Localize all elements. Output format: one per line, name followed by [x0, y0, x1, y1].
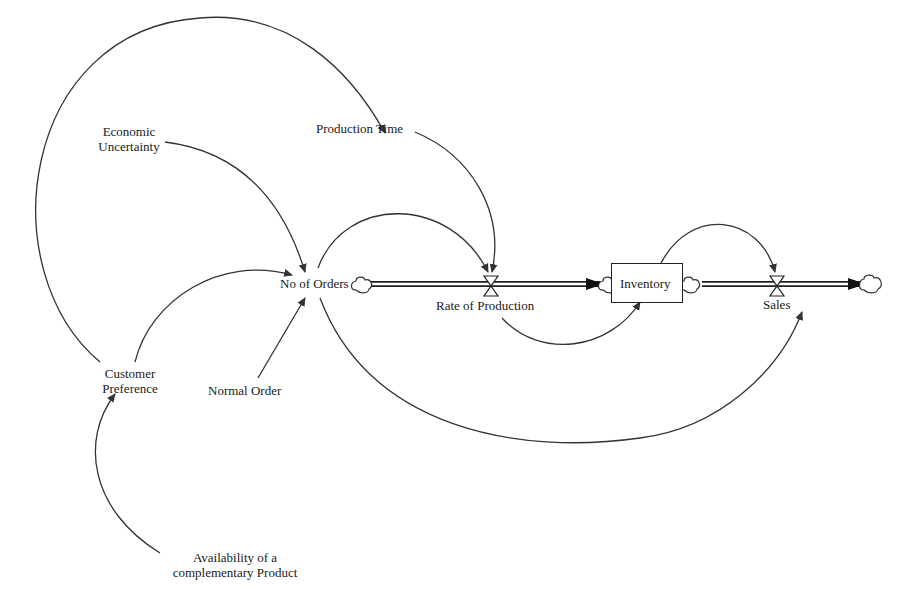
flow-rate-of-production: Rate of Production	[436, 298, 534, 313]
var-customer-preference: Customer Preference	[90, 366, 170, 396]
var-no-of-orders: No of Orders	[280, 276, 349, 291]
link-orders-to-rate	[318, 214, 488, 272]
var-economic-uncertainty: Economic Uncertainty	[88, 124, 170, 154]
cloud-source-icon	[352, 277, 372, 293]
link-orders-to-sales	[320, 298, 802, 443]
var-availability-complementary-product: Availability of a complementary Product	[160, 550, 310, 580]
link-economic-to-orders	[165, 142, 305, 272]
link-customerpref-to-orders	[135, 270, 292, 362]
var-production-time: Production Time	[316, 121, 403, 136]
link-availability-to-custpref	[95, 394, 160, 553]
stock-inventory-label: Inventory	[620, 276, 671, 291]
cloud-sink-icon	[860, 275, 882, 293]
flow-pipe-sales	[702, 278, 866, 290]
link-prodtime-to-rate	[415, 132, 495, 272]
var-normal-order: Normal Order	[208, 383, 281, 398]
link-normalorder-to-orders	[258, 298, 305, 378]
link-customer-pref-to-production-time	[36, 17, 385, 362]
flow-sales: Sales	[763, 297, 790, 312]
